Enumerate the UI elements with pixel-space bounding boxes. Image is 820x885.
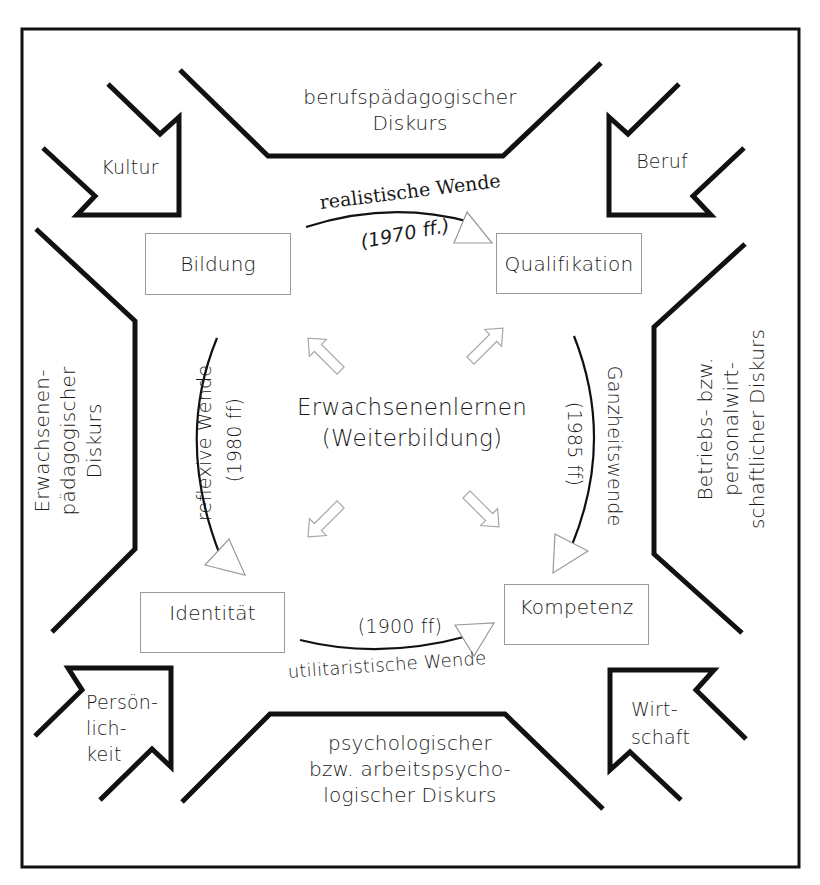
hollow-arrow-up-left-icon — [300, 330, 349, 379]
concept-label: Kompetenz — [520, 595, 634, 619]
influence-wirtschaft-label: Wirt- schaft — [631, 695, 711, 751]
turn-period-utilitaristische-wende: (1900 ff) — [335, 615, 465, 637]
concept-label: Identität — [169, 601, 256, 625]
concept-label: Bildung — [180, 252, 256, 276]
kultur-arrow-shape — [43, 84, 179, 215]
concept-label: Qualifikation — [505, 252, 634, 276]
discourse-bottom-label: psychologischer bzw. arbeitspsycho- logi… — [230, 730, 590, 808]
center-title: Erwachsenenlernen (Weiterbildung) — [262, 392, 562, 454]
concept-box-bildung: Bildung — [145, 233, 291, 295]
turn-period-ganzheitswende: (1985 ff) — [562, 374, 586, 514]
ganzheitswende-arrowhead — [553, 534, 588, 573]
center-title-line1: Erwachsenenlernen — [262, 392, 562, 423]
reflexive-wende-arrowhead — [205, 539, 245, 575]
discourse-right-label: Betriebs- bzw. personalwirt- schaftliche… — [692, 299, 770, 559]
discourse-top-label: berufspädagogischer Diskurs — [235, 84, 585, 136]
hollow-arrow-up-right-icon — [462, 320, 511, 369]
turn-label-ganzheitswende: Ganzheitswende — [602, 346, 626, 546]
turn-label-reflexive-wende: reflexive Wende — [193, 343, 217, 543]
center-title-line2: (Weiterbildung) — [262, 423, 562, 454]
influence-kultur-label: Kultur — [90, 156, 170, 178]
concept-box-kompetenz: Kompetenz — [504, 584, 649, 645]
concept-box-identitat: Identität — [140, 592, 285, 653]
hollow-arrow-down-right-icon — [458, 486, 507, 535]
discourse-left-label: Erwachsenen- pädagogischer Diskurs — [29, 321, 107, 561]
utilitaristische-wende-curve — [300, 636, 468, 649]
hollow-arrow-down-left-icon — [300, 496, 349, 545]
turn-period-reflexive-wende: (1980 ff) — [223, 370, 247, 510]
concept-box-qualifikation: Qualifikation — [496, 233, 642, 294]
influence-beruf-label: Beruf — [622, 150, 702, 172]
influence-personlichkeit-label: Persön- lich- keit — [86, 689, 166, 767]
